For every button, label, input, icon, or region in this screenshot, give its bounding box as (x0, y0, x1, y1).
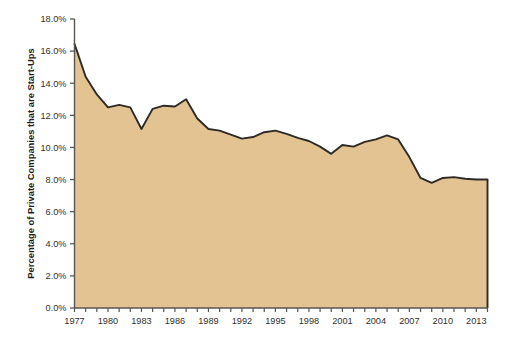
y-axis-tick-label: 4.0% (46, 239, 67, 249)
x-axis-tick-label: 1989 (198, 316, 218, 326)
y-axis-tick-label: 16.0% (40, 46, 66, 56)
y-axis-tick-label: 14.0% (40, 79, 66, 89)
y-axis-tick-label: 12.0% (40, 111, 66, 121)
y-axis-tick-label: 18.0% (40, 14, 66, 24)
x-axis-tick-label: 1998 (299, 316, 319, 326)
chart-canvas: 0.0%2.0%4.0%6.0%8.0%10.0%12.0%14.0%16.0%… (0, 0, 506, 345)
start-ups-percentage-area-chart: 0.0%2.0%4.0%6.0%8.0%10.0%12.0%14.0%16.0%… (0, 0, 506, 345)
x-axis-tick-label: 1992 (232, 316, 252, 326)
y-axis-tick-label: 10.0% (40, 143, 66, 153)
x-axis-tick-label: 2001 (332, 316, 352, 326)
x-axis-tick-label: 1995 (265, 316, 285, 326)
x-axis-tick-label: 2013 (466, 316, 486, 326)
x-axis-tick-label: 1977 (64, 316, 84, 326)
y-axis-tick-label: 0.0% (46, 303, 67, 313)
x-axis-tick-label: 2007 (399, 316, 419, 326)
y-axis-title: Percentage of Private Companies that are… (25, 48, 36, 278)
x-axis-tick-label: 2010 (433, 316, 453, 326)
x-axis-tick-label: 2004 (366, 316, 386, 326)
x-axis-tick-label: 1986 (165, 316, 185, 326)
y-axis-tick-label: 2.0% (46, 271, 67, 281)
y-axis-tick-label: 8.0% (46, 175, 67, 185)
y-axis-tick-label: 6.0% (46, 207, 67, 217)
x-axis-tick-label: 1980 (98, 316, 118, 326)
x-axis-tick-label: 1983 (131, 316, 151, 326)
